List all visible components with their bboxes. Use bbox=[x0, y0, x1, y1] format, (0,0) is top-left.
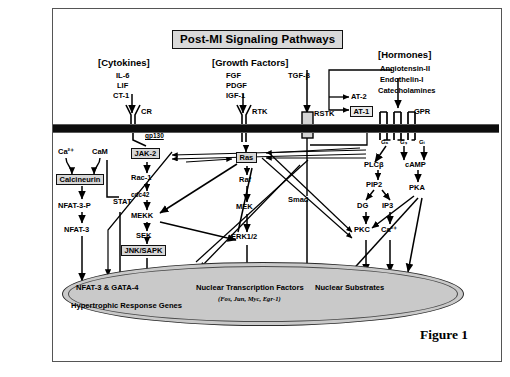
ligand-pdgf: PDGF bbox=[226, 82, 247, 90]
node-cdc42: cdc42 bbox=[131, 192, 149, 199]
nucleus-nfat-gata: NFAT-3 & GATA-4 bbox=[76, 283, 138, 292]
receptor-rstk: RSTK bbox=[314, 110, 334, 118]
node-pip2: PIP2 bbox=[366, 181, 382, 189]
figure-title: Post-MI Signaling Pathways bbox=[172, 30, 343, 49]
node-pkc: PKC bbox=[354, 226, 370, 234]
receptor-gpr: GPR bbox=[414, 108, 430, 116]
node-calcium: Ca²⁺ bbox=[58, 148, 74, 156]
ligand-catecholamines: Catecholamines bbox=[378, 87, 436, 95]
receptor-at1: AT-1 bbox=[350, 106, 373, 117]
node-nfat3-p: NFAT-3-P bbox=[58, 202, 91, 210]
node-plcb: PLCβ bbox=[364, 161, 384, 169]
receptor-cr: CR bbox=[141, 108, 152, 116]
node-calcineurin: Calcineurin bbox=[56, 174, 104, 185]
ligand-endothelin-i: Endothelin-I bbox=[380, 76, 423, 84]
nucleus-inner-outline bbox=[68, 266, 458, 322]
plasma-membrane bbox=[53, 124, 499, 133]
node-nfat3: NFAT-3 bbox=[64, 226, 89, 234]
node-erk: ERK1/2 bbox=[231, 233, 257, 241]
node-sek: SEK bbox=[136, 232, 151, 240]
figure-caption: Figure 1 bbox=[420, 327, 468, 343]
g-subunit-i: Gᵢ bbox=[419, 139, 425, 145]
node-ras: Ras bbox=[236, 152, 257, 163]
g-subunit-alpha: Gₐ bbox=[381, 139, 388, 145]
group-header-growth-factors: [Growth Factors] bbox=[212, 58, 289, 68]
nucleus-hypertrophic-genes: Hypertrophic Response Genes bbox=[71, 301, 182, 310]
ligand-il6: IL-6 bbox=[116, 72, 129, 80]
group-header-cytokines: [Cytokines] bbox=[98, 58, 150, 68]
node-camp: cAMP bbox=[405, 161, 426, 169]
nucleus-transcription-factor-list: (Fos, Jun, Myc, Egr-1) bbox=[218, 295, 281, 302]
node-ca-cytosolic: Ca²⁺ bbox=[381, 226, 397, 234]
node-dg: DG bbox=[357, 202, 368, 210]
nucleus-substrates: Nuclear Substrates bbox=[315, 283, 384, 292]
node-mekk: MEKK bbox=[131, 212, 153, 220]
node-jnk-sapk: JNK/SAPK bbox=[121, 245, 166, 256]
ligand-fgf: FGF bbox=[226, 72, 241, 80]
node-rac1: Rac-1 bbox=[131, 174, 151, 182]
g-subunit-s: Gₛ bbox=[400, 139, 407, 145]
node-jak2: JAK-2 bbox=[131, 148, 160, 159]
node-calmodulin: CaM bbox=[92, 148, 108, 156]
node-stat: STAT bbox=[113, 198, 131, 206]
group-header-hormones: [Hormones] bbox=[378, 50, 431, 60]
node-smad: Smad bbox=[288, 196, 308, 204]
receptor-at2: AT-2 bbox=[351, 93, 367, 101]
node-ip3: IP3 bbox=[382, 202, 393, 210]
ligand-ct1: CT-1 bbox=[113, 92, 129, 100]
node-mek: MEK bbox=[236, 203, 253, 211]
receptor-gp130: gp130 bbox=[145, 133, 164, 140]
ligand-lif: LIF bbox=[117, 82, 128, 90]
nucleus-transcription-factors: Nuclear Transcription Factors bbox=[196, 283, 304, 292]
ligand-angiotensin-ii: Angiotensin-II bbox=[380, 65, 430, 73]
node-raf: Raf bbox=[239, 176, 251, 184]
node-pka: PKA bbox=[409, 184, 425, 192]
ligand-igf1: IGF-1 bbox=[226, 92, 245, 100]
receptor-rtk: RTK bbox=[252, 108, 267, 116]
ligand-tgfb: TGF-β bbox=[288, 72, 310, 80]
